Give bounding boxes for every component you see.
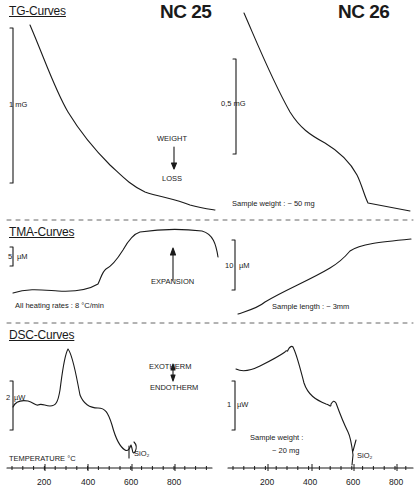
tg-curve-nc25 <box>30 25 215 210</box>
dsc-sample-weight-line1: Sample weight : <box>250 433 303 442</box>
dsc-left-scale-unit: µW <box>14 393 25 402</box>
tg-right-scale-label: 0,5 mG <box>221 99 246 108</box>
title-nc26: NC 26 <box>338 1 389 23</box>
tma-right-scale-unit: µM <box>239 261 250 270</box>
x-tick-right-600: 600 <box>346 477 360 487</box>
section-title-tg: TG-Curves <box>9 4 66 18</box>
title-nc25: NC 25 <box>160 1 211 23</box>
endo-arrowhead <box>171 375 175 381</box>
dsc-left-scale-bar <box>10 381 13 430</box>
x-axis-label: TEMPERATURE °C <box>9 454 76 463</box>
dsc-right-scale-value: 1 <box>227 400 231 409</box>
dsc-sample-weight-line2: ~ 20 mg <box>272 446 299 455</box>
dsc-right-scale-unit: µW <box>237 400 248 409</box>
heating-rates-label: All heating rates : 8 °C/min <box>15 301 104 310</box>
weight-loss-arrowhead <box>172 163 177 169</box>
expansion-label: EXPANSION <box>151 277 194 286</box>
tg-left-scale-label: 1 mG <box>9 100 27 109</box>
section-title-dsc: DSC-Curves <box>9 328 74 342</box>
dsc-curve-nc25 <box>13 349 136 453</box>
endotherm-label: ENDOTHERM <box>150 383 198 392</box>
weight-label: WEIGHT <box>157 134 187 143</box>
section-title-tma: TMA-Curves <box>9 225 74 239</box>
dsc-right-scale-bar <box>232 381 235 430</box>
sio2-label-right: SiO₂ <box>357 451 372 460</box>
tg-curve-nc26 <box>244 13 410 211</box>
expansion-arrowhead <box>171 248 176 255</box>
exotherm-label: EXOTHERM <box>149 362 192 371</box>
tma-left-scale-unit: µM <box>17 252 28 261</box>
x-tick-left-400: 400 <box>81 477 95 487</box>
dsc-left-scale-value: 2 <box>6 393 10 402</box>
figure-canvas <box>0 0 417 497</box>
tg-sample-weight: Sample weight : ~ 50 mg <box>232 199 315 208</box>
x-tick-left-200: 200 <box>37 477 51 487</box>
x-tick-right-200: 200 <box>260 477 274 487</box>
loss-label: LOSS <box>162 174 182 183</box>
tma-right-scale-value: 10 <box>225 261 233 270</box>
x-tick-left-800: 800 <box>167 477 181 487</box>
sample-length-label: Sample length : ~ 3mm <box>272 302 349 311</box>
tma-left-scale-value: 5 <box>8 252 12 261</box>
x-tick-right-800: 800 <box>389 477 403 487</box>
sio2-label-left: SiO₂ <box>134 449 149 458</box>
x-tick-right-400: 400 <box>303 477 317 487</box>
x-tick-left-600: 600 <box>124 477 138 487</box>
